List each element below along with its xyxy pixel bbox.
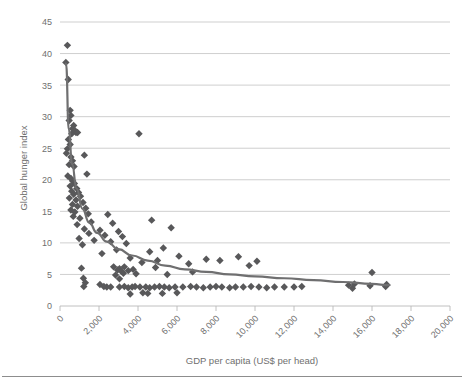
gridlines bbox=[60, 22, 450, 306]
data-point-marker bbox=[247, 283, 254, 290]
data-point-marker bbox=[73, 221, 80, 228]
data-point-marker bbox=[368, 269, 375, 276]
data-point-marker bbox=[76, 215, 83, 222]
data-point-marker bbox=[78, 264, 85, 271]
data-point-marker bbox=[64, 42, 71, 49]
data-point-marker bbox=[160, 244, 167, 251]
data-point-marker bbox=[167, 224, 174, 231]
data-point-marker bbox=[148, 216, 155, 223]
data-point-marker bbox=[85, 230, 92, 237]
y-tick-label: 5 bbox=[47, 270, 52, 280]
y-tick-label: 20 bbox=[42, 175, 52, 185]
data-point-marker bbox=[83, 170, 90, 177]
data-point-marker bbox=[271, 283, 278, 290]
y-axis-tick-labels: 051015202530354045 bbox=[42, 17, 52, 311]
data-point-marker bbox=[104, 211, 111, 218]
data-point-marker bbox=[144, 290, 151, 297]
data-point-marker bbox=[119, 233, 126, 240]
data-point-marker bbox=[75, 235, 82, 242]
data-point-marker bbox=[179, 283, 186, 290]
chart-canvas: 051015202530354045 02,0004,0006,0008,000… bbox=[0, 0, 464, 391]
data-point-marker bbox=[216, 257, 223, 264]
x-tick-label: 18,000 bbox=[390, 313, 417, 340]
data-point-marker bbox=[166, 284, 173, 291]
x-tick-label: 16,000 bbox=[351, 313, 378, 340]
data-point-marker bbox=[98, 250, 105, 257]
data-point-marker bbox=[253, 257, 260, 264]
data-point-marker bbox=[115, 228, 122, 235]
data-point-marker bbox=[235, 253, 242, 260]
y-tick-label: 10 bbox=[42, 238, 52, 248]
y-tick-label: 35 bbox=[42, 81, 52, 91]
data-point-marker bbox=[146, 248, 153, 255]
data-points bbox=[62, 42, 390, 298]
data-point-marker bbox=[193, 283, 200, 290]
data-point-marker bbox=[263, 284, 270, 291]
y-tick-label: 45 bbox=[42, 17, 52, 27]
x-tick-label: 8,000 bbox=[198, 313, 221, 336]
data-point-marker bbox=[123, 240, 130, 247]
data-point-marker bbox=[164, 271, 171, 278]
scatter-chart: 051015202530354045 02,0004,0006,0008,000… bbox=[0, 0, 464, 391]
x-tick-label: 12,000 bbox=[273, 313, 300, 340]
x-tick-label: 2,000 bbox=[81, 313, 104, 336]
y-tick-label: 15 bbox=[42, 207, 52, 217]
data-point-marker bbox=[135, 130, 142, 137]
data-point-marker bbox=[200, 284, 207, 291]
data-point-marker bbox=[159, 290, 166, 297]
data-point-marker bbox=[107, 283, 114, 290]
data-point-marker bbox=[298, 283, 305, 290]
data-point-marker bbox=[79, 241, 86, 248]
x-axis-ticks bbox=[60, 306, 450, 311]
y-tick-label: 25 bbox=[42, 144, 52, 154]
data-point-marker bbox=[175, 252, 182, 259]
x-tick-label: 20,000 bbox=[429, 313, 456, 340]
data-point-marker bbox=[212, 283, 219, 290]
x-tick-label: 10,000 bbox=[234, 313, 261, 340]
data-point-marker bbox=[127, 290, 134, 297]
data-point-marker bbox=[81, 225, 88, 232]
data-point-marker bbox=[203, 256, 210, 263]
footer-divider bbox=[2, 376, 462, 377]
x-tick-label: 4,000 bbox=[120, 313, 143, 336]
data-point-marker bbox=[64, 76, 71, 83]
data-point-marker bbox=[218, 283, 225, 290]
x-tick-label: 6,000 bbox=[159, 313, 182, 336]
data-point-marker bbox=[245, 262, 252, 269]
y-tick-label: 30 bbox=[42, 112, 52, 122]
data-point-marker bbox=[173, 289, 180, 296]
data-point-marker bbox=[255, 283, 262, 290]
data-point-marker bbox=[232, 283, 239, 290]
x-tick-label: 0 bbox=[55, 313, 66, 324]
y-tick-label: 0 bbox=[47, 301, 52, 311]
y-axis-title: Global hunger index bbox=[18, 125, 29, 210]
data-point-marker bbox=[206, 283, 213, 290]
x-tick-label: 14,000 bbox=[312, 313, 339, 340]
data-point-marker bbox=[187, 283, 194, 290]
data-point-marker bbox=[281, 283, 288, 290]
data-point-marker bbox=[109, 220, 116, 227]
data-point-marker bbox=[185, 260, 192, 267]
data-point-marker bbox=[171, 283, 178, 290]
data-point-marker bbox=[226, 284, 233, 291]
x-axis-tick-labels: 02,0004,0006,0008,00010,00012,00014,0001… bbox=[55, 313, 456, 340]
data-point-marker bbox=[81, 151, 88, 158]
data-point-marker bbox=[290, 283, 297, 290]
x-axis-title: GDP per capita (US$ per head) bbox=[186, 355, 318, 366]
data-point-marker bbox=[240, 283, 247, 290]
trend-line bbox=[66, 64, 390, 286]
y-tick-label: 40 bbox=[42, 49, 52, 59]
